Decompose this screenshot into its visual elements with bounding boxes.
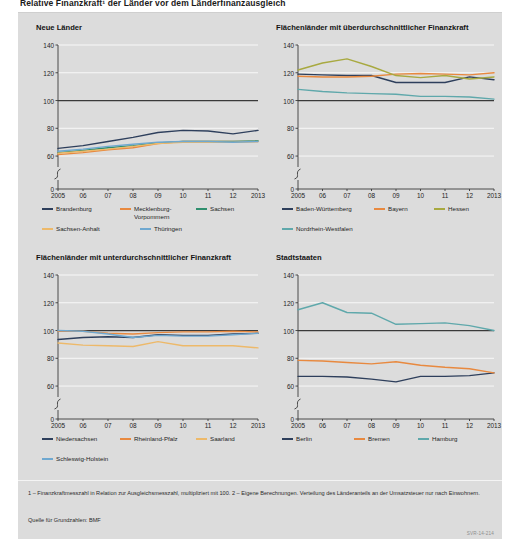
legend-item-bayern[interactable]: Bayern: [374, 205, 408, 213]
series-line-2: [298, 303, 494, 331]
legend-swatch-icon: [434, 208, 445, 210]
legend-label: Bremen: [368, 435, 390, 443]
y-tick-label: 120: [43, 299, 54, 306]
legend-chart-1: Baden-WürttembergBayernHessenNordrhein-W…: [282, 205, 498, 239]
legend-item-niedersachsen[interactable]: Niedersachsen: [42, 435, 97, 443]
page-title: Relative Finanzkraft¹ der Länder vor dem…: [20, 0, 500, 9]
legend-label: Niedersachsen: [56, 435, 97, 443]
x-tick-label: 08: [129, 422, 136, 429]
plot-svg-1: [276, 41, 498, 191]
footnote-band: 1 – Finanzkraftmesszahl in Relation zur …: [18, 480, 502, 539]
legend-item-schleswig-holstein[interactable]: Schleswig-Holstein: [42, 455, 108, 463]
x-tick-label: 06: [319, 192, 326, 199]
x-tick-label: 11: [205, 422, 212, 429]
legend-label: Hamburg: [432, 435, 457, 443]
legend-item-th-ringen[interactable]: Thüringen: [140, 225, 182, 233]
legend-chart-0: BrandenburgMecklenburg-VorpommernSachsen…: [42, 205, 268, 239]
legend-item-saarland[interactable]: Saarland: [196, 435, 235, 443]
legend-item-baden-w-rttemberg[interactable]: Baden-Württemberg: [282, 205, 352, 213]
x-tick-label: 06: [79, 192, 86, 199]
x-tick-label: 09: [154, 192, 161, 199]
series-line-3: [298, 89, 494, 99]
legend-item-rheinland-pfalz[interactable]: Rheinland-Pfalz: [120, 435, 178, 443]
y-tick-label: 140: [43, 42, 54, 49]
legend-label: Thüringen: [154, 225, 182, 233]
legend-swatch-icon: [42, 228, 53, 230]
y-axis-labels-1: 60801001201400: [276, 41, 296, 191]
x-tick-label: 09: [392, 422, 399, 429]
legend-item-brandenburg[interactable]: Brandenburg: [42, 205, 92, 213]
x-tick-label: 10: [179, 422, 186, 429]
y-axis-labels-0: 60801001201400: [36, 41, 56, 191]
legend-swatch-icon: [418, 438, 429, 440]
series-line-0: [58, 333, 258, 339]
legend-swatch-icon: [196, 208, 207, 210]
plot-area-0: 608010012014002005060708091011122013: [36, 41, 264, 191]
x-tick-label: 2005: [51, 192, 65, 199]
x-tick-label: 2005: [291, 192, 305, 199]
legend-label: Baden-Württemberg: [296, 205, 352, 213]
x-tick-label: 08: [129, 192, 136, 199]
x-tick-label: 08: [368, 422, 375, 429]
legend-chart-2: NiedersachsenRheinland-PfalzSaarlandSchl…: [42, 435, 268, 469]
legend-swatch-icon: [120, 208, 131, 210]
legend-label: Brandenburg: [56, 205, 92, 213]
legend-item-berlin[interactable]: Berlin: [282, 435, 312, 443]
legend-label: Nordrhein-Westfalen: [296, 225, 353, 233]
legend-item-bremen[interactable]: Bremen: [354, 435, 390, 443]
x-tick-label: 09: [392, 192, 399, 199]
legend-label: Rheinland-Pfalz: [134, 435, 178, 443]
legend-label: Sachsen-Anhalt: [56, 225, 100, 233]
x-tick-label: 11: [442, 192, 449, 199]
y-tick-label: 80: [47, 355, 54, 362]
x-tick-label: 07: [104, 422, 111, 429]
plot-area-2: 608010012014002005060708091011122013: [36, 271, 264, 421]
y-tick-label: 60: [47, 383, 54, 390]
legend-item-hamburg[interactable]: Hamburg: [418, 435, 457, 443]
y-tick-label: 100: [43, 97, 54, 104]
chart-stadtstaaten: Stadtstaaten 608010012014002005060708091…: [276, 253, 496, 443]
x-tick-label: 2005: [291, 422, 305, 429]
y-axis-labels-2: 60801001201400: [36, 271, 56, 421]
plot-svg-3: [276, 271, 498, 421]
y-tick-label: 140: [283, 42, 294, 49]
legend-swatch-icon: [140, 228, 151, 230]
y-tick-label: 80: [287, 125, 294, 132]
legend-swatch-icon: [282, 228, 293, 230]
y-tick-label: 60: [287, 153, 294, 160]
legend-swatch-icon: [42, 208, 53, 210]
legend-label: Saarland: [210, 435, 235, 443]
legend-item-sachsen-anhalt[interactable]: Sachsen-Anhalt: [42, 225, 100, 233]
x-tick-label: 09: [154, 422, 161, 429]
plot-area-1: 608010012014002005060708091011122013: [276, 41, 496, 191]
series-line-0: [58, 130, 258, 148]
legend-item-sachsen[interactable]: Sachsen: [196, 205, 234, 213]
x-tick-label: 2013: [487, 192, 501, 199]
x-tick-label: 08: [368, 192, 375, 199]
y-tick-label: 140: [43, 272, 54, 279]
y-axis-labels-3: 60801001201400: [276, 271, 296, 421]
legend-swatch-icon: [42, 458, 53, 460]
legend-item-hessen[interactable]: Hessen: [434, 205, 469, 213]
chart-title-3: Stadtstaaten: [276, 253, 496, 263]
figure-id: SVR-14-214: [467, 531, 494, 536]
y-tick-label: 80: [47, 125, 54, 132]
x-tick-label: 07: [104, 192, 111, 199]
plot-svg-0: [36, 41, 262, 191]
x-tick-label: 10: [179, 192, 186, 199]
x-tick-label: 11: [205, 192, 212, 199]
y-tick-label: 60: [47, 153, 54, 160]
x-tick-label: 2013: [487, 422, 501, 429]
legend-chart-3: BerlinBremenHamburg: [282, 435, 498, 469]
legend-label: Berlin: [296, 435, 312, 443]
footnote-text: 1 – Finanzkraftmesszahl in Relation zur …: [28, 489, 490, 498]
y-tick-label: 80: [287, 355, 294, 362]
series-line-0: [298, 373, 494, 382]
chart-title-0: Neue Länder: [36, 23, 264, 33]
x-tick-label: 2013: [251, 422, 265, 429]
legend-item-mecklenburg-vorpommern[interactable]: Mecklenburg-Vorpommern: [120, 205, 204, 220]
legend-swatch-icon: [282, 438, 293, 440]
series-line-2: [298, 59, 494, 79]
legend-item-nordrhein-westfalen[interactable]: Nordrhein-Westfalen: [282, 225, 353, 233]
legend-swatch-icon: [120, 438, 131, 440]
